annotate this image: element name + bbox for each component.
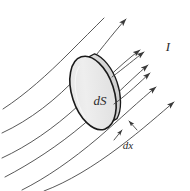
- dx-leader-left: [114, 130, 122, 140]
- figure-canvas: dS dx I: [0, 0, 190, 191]
- dx-leader-right: [129, 121, 137, 130]
- physics-figure: dS dx I: [0, 0, 190, 191]
- dx-dimension: [114, 121, 137, 140]
- label-thickness: dx: [123, 139, 134, 151]
- label-current: I: [165, 39, 171, 54]
- label-surface-element: dS: [94, 93, 108, 108]
